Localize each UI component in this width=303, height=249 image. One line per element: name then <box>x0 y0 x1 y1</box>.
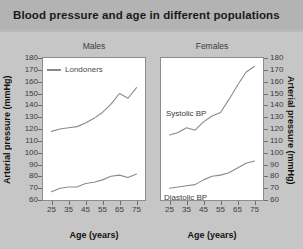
y-tick-label-right-110: 110 <box>270 137 290 145</box>
y-tick-mark-left-120 <box>38 129 42 130</box>
y-tick-mark-right-120 <box>264 129 268 130</box>
y-tick-label-left-80: 80 <box>18 172 38 180</box>
y-tick-mark-right-160 <box>264 82 268 83</box>
y-tick-mark-right-80 <box>264 176 268 177</box>
y-tick-label-right-120: 120 <box>270 125 290 133</box>
plot-lines-males <box>43 58 145 200</box>
y-tick-mark-left-70 <box>38 188 42 189</box>
plot-panel-females <box>160 57 264 201</box>
y-tick-label-right-90: 90 <box>270 161 290 169</box>
y-tick-label-right-60: 60 <box>270 196 290 204</box>
y-tick-mark-right-100 <box>264 153 268 154</box>
x-tick-label-males-25: 25 <box>45 206 59 214</box>
x-tick-label-females-75: 75 <box>248 206 262 214</box>
y-tick-label-left-140: 140 <box>18 101 38 109</box>
y-tick-mark-right-110 <box>264 141 268 142</box>
x-tick-label-males-45: 45 <box>79 206 93 214</box>
x-axis-label-males: Age (years) <box>42 230 146 240</box>
y-tick-mark-right-90 <box>264 165 268 166</box>
y-tick-mark-left-140 <box>38 105 42 106</box>
chart-title-bar: Blood pressure and age in different popu… <box>0 0 303 30</box>
y-tick-label-right-140: 140 <box>270 101 290 109</box>
y-tick-mark-right-140 <box>264 105 268 106</box>
x-tick-label-males-55: 55 <box>96 206 110 214</box>
y-tick-label-left-70: 70 <box>18 184 38 192</box>
panel-title-males: Males <box>42 41 146 53</box>
x-tick-label-males-75: 75 <box>130 206 144 214</box>
y-tick-label-right-150: 150 <box>270 90 290 98</box>
figure-container: Blood pressure and age in different popu… <box>0 0 303 249</box>
y-tick-label-right-100: 100 <box>270 149 290 157</box>
y-tick-mark-right-130 <box>264 117 268 118</box>
y-axis-label-left: Arterial pressure (mmHg) <box>2 60 12 200</box>
y-tick-label-left-100: 100 <box>18 149 38 157</box>
panel-title-females: Females <box>160 41 264 53</box>
y-tick-mark-left-160 <box>38 82 42 83</box>
plot-panel-males <box>42 57 146 201</box>
y-tick-mark-right-60 <box>264 200 268 201</box>
y-tick-label-left-110: 110 <box>18 137 38 145</box>
y-tick-label-left-180: 180 <box>18 54 38 62</box>
y-tick-label-left-130: 130 <box>18 113 38 121</box>
y-tick-mark-left-90 <box>38 165 42 166</box>
x-tick-label-males-35: 35 <box>62 206 76 214</box>
y-tick-mark-left-180 <box>38 58 42 59</box>
x-tick-label-females-35: 35 <box>180 206 194 214</box>
page-title: Blood pressure and age in different popu… <box>0 9 280 21</box>
chart-area: Arterial pressure (mmHg) Arterial pressu… <box>0 32 303 249</box>
y-tick-mark-right-150 <box>264 94 268 95</box>
y-tick-label-right-70: 70 <box>270 184 290 192</box>
y-tick-mark-left-60 <box>38 200 42 201</box>
y-tick-mark-left-110 <box>38 141 42 142</box>
y-tick-mark-left-150 <box>38 94 42 95</box>
y-tick-label-left-90: 90 <box>18 161 38 169</box>
x-tick-label-females-45: 45 <box>197 206 211 214</box>
y-tick-label-right-80: 80 <box>270 172 290 180</box>
y-tick-label-left-170: 170 <box>18 66 38 74</box>
legend-label-londoners: Londoners <box>65 65 103 74</box>
x-axis-label-females: Age (years) <box>160 230 264 240</box>
y-tick-mark-left-100 <box>38 153 42 154</box>
x-tick-label-females-55: 55 <box>214 206 228 214</box>
y-tick-label-left-60: 60 <box>18 196 38 204</box>
y-tick-label-right-130: 130 <box>270 113 290 121</box>
y-tick-mark-left-170 <box>38 70 42 71</box>
series-label-systolic: Systolic BP <box>166 109 206 118</box>
y-tick-label-left-160: 160 <box>18 78 38 86</box>
y-tick-label-left-150: 150 <box>18 90 38 98</box>
y-tick-mark-right-180 <box>264 58 268 59</box>
plot-lines-females <box>161 58 263 200</box>
y-tick-mark-left-130 <box>38 117 42 118</box>
y-tick-label-right-160: 160 <box>270 78 290 86</box>
y-tick-label-right-180: 180 <box>270 54 290 62</box>
x-tick-label-females-65: 65 <box>231 206 245 214</box>
y-tick-mark-right-70 <box>264 188 268 189</box>
x-tick-label-females-25: 25 <box>163 206 177 214</box>
y-tick-mark-left-80 <box>38 176 42 177</box>
legend-line-icon <box>47 69 61 71</box>
legend-males: Londoners <box>47 65 103 74</box>
y-tick-label-left-120: 120 <box>18 125 38 133</box>
y-tick-label-right-170: 170 <box>270 66 290 74</box>
y-tick-mark-right-170 <box>264 70 268 71</box>
x-tick-label-males-65: 65 <box>113 206 127 214</box>
